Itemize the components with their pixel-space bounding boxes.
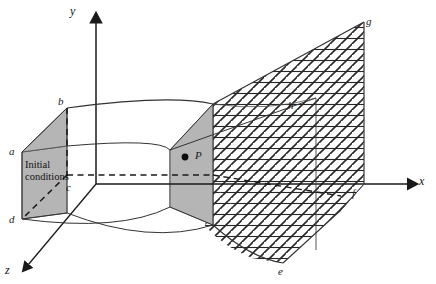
vertex-label-c: c (66, 182, 71, 193)
vertex-label-f: f (352, 188, 355, 199)
initial-conditions-line-2: conditions (25, 171, 69, 183)
vertex-label-a: a (9, 146, 15, 157)
y-axis-label: y (70, 5, 75, 17)
hatched-region (205, 22, 364, 263)
vertex-label-h: h (288, 100, 294, 111)
mid-plane-shaded (170, 104, 213, 225)
initial-conditions-label: Initial conditions (25, 159, 69, 183)
diagram-vector-graphics (0, 0, 436, 284)
point-p-label: P (195, 150, 202, 161)
point-p-marker (182, 154, 189, 161)
z-axis-label: z (5, 264, 10, 276)
vertex-label-d: d (9, 214, 15, 225)
vertex-label-g: g (366, 16, 372, 27)
vertex-label-e: e (278, 266, 283, 277)
x-axis-label: x (419, 175, 424, 187)
vertex-label-b: b (58, 96, 64, 107)
diagram-canvas: y x z a b c d e f g h P Initial conditio… (0, 0, 436, 284)
initial-conditions-line-1: Initial (25, 159, 69, 171)
